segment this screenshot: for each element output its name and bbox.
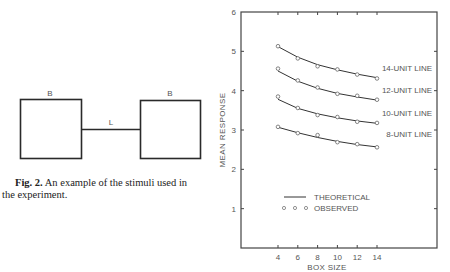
- chart-axes: 123456468101214: [232, 8, 437, 262]
- x-tick-label: 14: [373, 253, 382, 262]
- x-tick-label: 10: [333, 253, 342, 262]
- observed-point: [336, 140, 340, 144]
- y-tick-label: 6: [232, 8, 237, 17]
- observed-point: [316, 133, 320, 137]
- x-tick-label: 12: [353, 253, 362, 262]
- y-tick-label: 4: [232, 87, 237, 96]
- theoretical-curve: [278, 47, 377, 78]
- line-label: L: [109, 118, 114, 127]
- y-tick-label: 5: [232, 47, 237, 56]
- observed-point: [276, 44, 280, 48]
- chart-legend: THEORETICAL OBSERVED: [282, 193, 370, 213]
- chart-series: 14-UNIT LINE12-UNIT LINE10-UNIT LINE8-UN…: [276, 44, 432, 149]
- observed-point: [375, 77, 379, 81]
- observed-point: [355, 73, 359, 77]
- series-8-unit-line: 8-UNIT LINE: [276, 125, 432, 149]
- observed-point: [336, 92, 340, 96]
- caption-text-line2: the experiment.: [2, 189, 228, 201]
- stimulus-figure: B B L: [0, 0, 230, 272]
- observed-point: [296, 79, 300, 83]
- observed-point: [316, 64, 320, 68]
- right-box-label: B: [167, 89, 172, 98]
- legend-observed-marker: [304, 206, 307, 209]
- x-tick-label: 8: [315, 253, 320, 262]
- observed-point: [296, 57, 300, 61]
- left-box: [21, 100, 82, 159]
- theoretical-curve: [278, 99, 377, 123]
- figure-caption: Fig. 2. An example of the stimuli used i…: [2, 177, 228, 201]
- figure-number: Fig. 2.: [15, 177, 43, 188]
- theoretical-curve: [278, 127, 377, 147]
- observed-point: [336, 68, 340, 72]
- observed-point: [375, 121, 379, 125]
- y-tick-label: 2: [232, 165, 237, 174]
- observed-point: [296, 131, 300, 135]
- legend-observed-label: OBSERVED: [314, 204, 359, 213]
- series-label: 10-UNIT LINE: [382, 109, 432, 118]
- observed-point: [355, 142, 359, 146]
- y-tick-label: 3: [232, 126, 237, 135]
- series-label: 12-UNIT LINE: [382, 86, 432, 95]
- right-box: [141, 101, 201, 159]
- left-box-label: B: [47, 89, 52, 98]
- legend-theoretical-label: THEORETICAL: [314, 193, 371, 202]
- series-14-unit-line: 14-UNIT LINE: [276, 44, 432, 80]
- observed-point: [375, 146, 379, 150]
- observed-point: [355, 94, 359, 98]
- observed-point: [355, 120, 359, 124]
- series-10-unit-line: 10-UNIT LINE: [276, 95, 432, 125]
- observed-point: [276, 67, 280, 71]
- observed-point: [276, 95, 280, 99]
- observed-point: [375, 98, 379, 102]
- observed-point: [336, 115, 340, 119]
- x-tick-label: 4: [276, 253, 281, 262]
- series-label: 8-UNIT LINE: [386, 130, 432, 139]
- caption-text-line1: An example of the stimuli used in: [43, 177, 187, 188]
- series-12-unit-line: 12-UNIT LINE: [276, 67, 432, 102]
- observed-point: [316, 113, 320, 117]
- x-tick-label: 6: [296, 253, 301, 262]
- y-tick-label: 1: [232, 205, 237, 214]
- legend-observed-marker: [282, 206, 285, 209]
- observed-point: [316, 86, 320, 90]
- observed-point: [276, 125, 280, 129]
- legend-observed-marker: [293, 206, 296, 209]
- x-axis-label: BOX SIZE: [307, 263, 346, 272]
- theoretical-curve: [278, 71, 377, 100]
- series-label: 14-UNIT LINE: [382, 64, 432, 73]
- observed-point: [296, 106, 300, 110]
- plot-frame: [241, 12, 437, 248]
